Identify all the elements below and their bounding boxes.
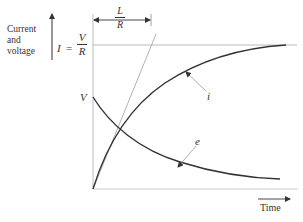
time-constant-fraction: L R	[115, 5, 125, 30]
time-constant-numerator: L	[117, 5, 123, 16]
y-axis-label-line-3: voltage	[7, 46, 36, 57]
asymptote-equals: =	[66, 43, 72, 54]
current-curve-label: i	[207, 91, 210, 102]
voltage-curve	[93, 97, 280, 179]
v-label: V	[80, 92, 87, 103]
y-axis-label: Current and voltage	[7, 24, 36, 57]
x-axis-label: Time	[260, 203, 281, 213]
current-label-leader	[186, 72, 206, 91]
asymptote-denominator: R	[79, 46, 86, 57]
fraction-bar	[115, 17, 125, 18]
asymptote-numerator: V	[79, 32, 86, 43]
asymptote-lhs: I	[57, 43, 61, 54]
time-constant-denominator: R	[117, 19, 123, 30]
asymptote-fraction: V R	[77, 32, 87, 57]
y-axis-label-line-1: Current	[7, 24, 36, 35]
voltage-curve-label: e	[195, 136, 200, 147]
y-axis-label-line-2: and	[7, 35, 36, 46]
rl-transient-diagram	[0, 0, 303, 222]
